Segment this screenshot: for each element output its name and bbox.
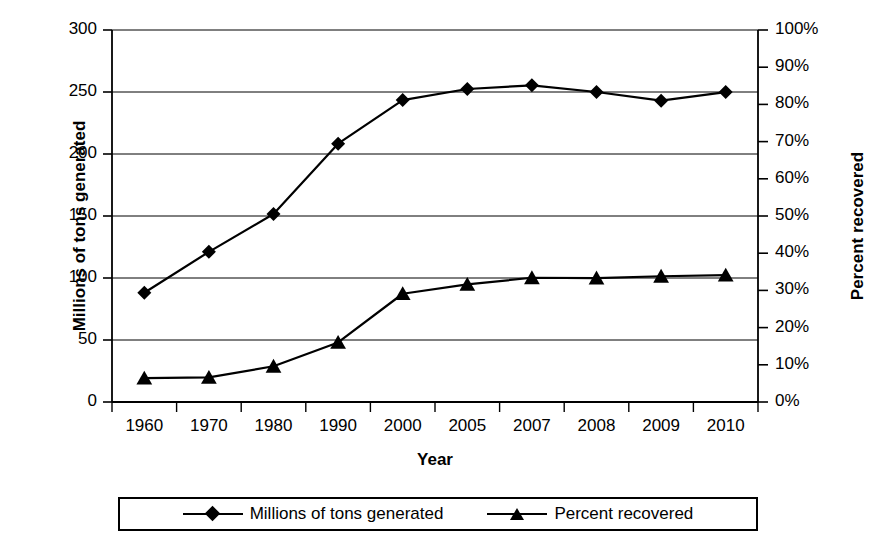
y-axis-right-tick-label: 90%	[775, 56, 845, 76]
x-axis-title: Year	[112, 450, 758, 470]
data-point-marker	[525, 78, 539, 92]
y-axis-left-tick-label: 150	[34, 205, 97, 225]
data-point-marker	[137, 286, 151, 300]
y-axis-right-tick-label: 80%	[775, 93, 845, 113]
y-axis-right-tick-label: 20%	[775, 317, 845, 337]
y-axis-right-tick-label: 30%	[775, 279, 845, 299]
data-point-marker	[460, 82, 474, 96]
data-point-marker	[654, 94, 668, 108]
series-line-1	[144, 85, 725, 292]
triangle-marker-icon	[487, 506, 547, 522]
legend-item-generated: Millions of tons generated	[183, 504, 444, 524]
y-axis-left-tick-label: 200	[34, 143, 97, 163]
y-axis-left-tick-label: 300	[34, 19, 97, 39]
y-axis-left-tick-label: 0	[34, 391, 97, 411]
y-axis-right-tick-label: 70%	[775, 131, 845, 151]
series-line-2	[144, 275, 725, 378]
x-axis-tick-label: 2010	[686, 416, 766, 436]
chart-legend: Millions of tons generated Percent recov…	[118, 497, 758, 531]
data-point-marker	[719, 85, 733, 99]
legend-label-recovered: Percent recovered	[554, 504, 693, 524]
chart-figure: Millions of tons generated Percent recov…	[0, 0, 876, 543]
y-axis-right-title: Percent recovered	[848, 36, 868, 416]
y-axis-left-tick-label: 100	[34, 267, 97, 287]
y-axis-left-tick-label: 250	[34, 81, 97, 101]
data-point-marker	[590, 85, 604, 99]
data-point-marker	[266, 359, 282, 373]
y-axis-right-tick-label: 0%	[775, 391, 845, 411]
data-point-marker	[396, 93, 410, 107]
diamond-marker-icon	[183, 506, 243, 522]
legend-label-generated: Millions of tons generated	[250, 504, 444, 524]
y-axis-right-tick-label: 40%	[775, 242, 845, 262]
data-point-marker	[202, 245, 216, 259]
y-axis-right-tick-label: 100%	[775, 19, 845, 39]
legend-item-recovered: Percent recovered	[487, 504, 693, 524]
y-axis-right-tick-label: 60%	[775, 168, 845, 188]
y-axis-right-tick-label: 10%	[775, 354, 845, 374]
y-axis-left-tick-label: 50	[34, 329, 97, 349]
y-axis-right-tick-label: 50%	[775, 205, 845, 225]
